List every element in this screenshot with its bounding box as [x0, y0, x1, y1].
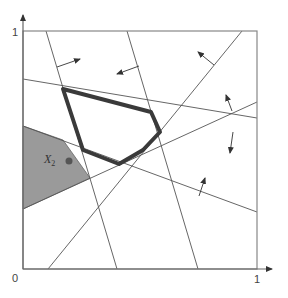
tick-label: 1 [254, 274, 260, 285]
normal-arrow-icon [226, 95, 232, 111]
lp-diagram [0, 0, 288, 298]
normal-arrow-icon [198, 52, 214, 65]
tick-label: 1 [12, 27, 18, 38]
diagram-canvas: 011 X2 [0, 0, 288, 298]
normal-arrow-icon [57, 59, 80, 67]
point-x2 [66, 158, 73, 165]
normal-arrow-icon [199, 178, 205, 196]
normal-arrow-icon [230, 132, 233, 153]
point-x2-dot [66, 158, 73, 165]
point-label-sub: 2 [51, 159, 55, 168]
normal-arrow-icon [117, 66, 139, 74]
tick-label: 0 [12, 273, 18, 284]
point-x2-label: X2 [44, 153, 55, 168]
constraint-line-4 [23, 79, 257, 118]
